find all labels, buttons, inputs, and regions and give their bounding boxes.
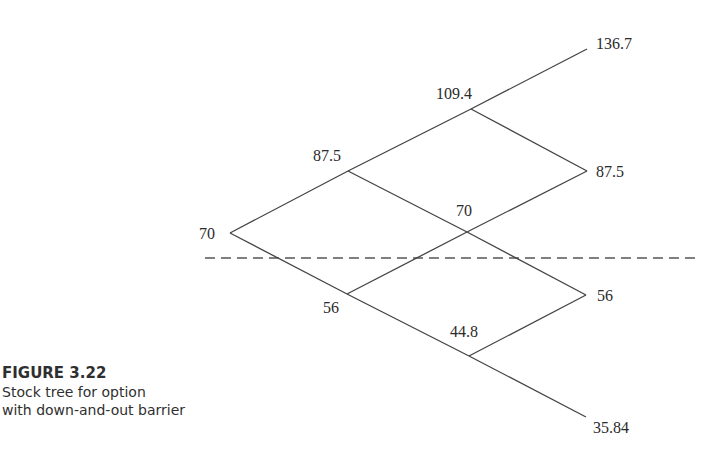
node-label-d1: 56 [323, 300, 339, 316]
node-label-ud2: 70 [456, 203, 472, 219]
node-label-uud3: 87.5 [596, 164, 624, 180]
tree-edge [347, 232, 467, 294]
tree-edge [471, 49, 587, 109]
caption-line-1: Stock tree for option [2, 383, 185, 401]
node-label-u1: 87.5 [313, 148, 341, 164]
tree-edge [230, 171, 348, 233]
tree-edge [467, 232, 586, 295]
node-label-dd2: 44.8 [450, 324, 478, 340]
node-label-n0: 70 [199, 226, 215, 242]
tree-edge [467, 171, 587, 232]
tree-edge [469, 356, 586, 417]
node-label-uuu3: 136.7 [596, 36, 632, 52]
tree-edge [230, 233, 347, 294]
node-label-ddd3: 35.84 [593, 420, 629, 436]
caption-line-2: with down-and-out barrier [2, 401, 185, 419]
stock-tree-diagram: 7087.556109.47044.8136.787.55635.84 FIGU… [0, 0, 728, 457]
figure-caption: FIGURE 3.22 Stock tree for option with d… [2, 364, 185, 419]
node-label-udd3: 56 [597, 288, 613, 304]
figure-title: FIGURE 3.22 [2, 364, 185, 383]
tree-edge [469, 295, 586, 356]
tree-edge [471, 109, 587, 171]
tree-edge [348, 171, 467, 232]
node-label-uu2: 109.4 [436, 86, 472, 102]
tree-edge [348, 109, 471, 171]
